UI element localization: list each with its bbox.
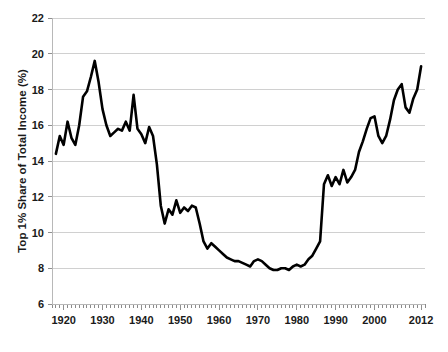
chart-container: 6810121416182022 19201930194019501960197…: [0, 0, 448, 352]
y-axis-title: Top 1% Share of Total Income (%): [16, 69, 28, 253]
y-axis-tick-label: 12: [32, 191, 44, 203]
y-axis-tick-label: 10: [32, 227, 44, 239]
y-axis-tick-label: 22: [32, 12, 44, 24]
x-axis-tick-label: 1960: [207, 314, 231, 326]
x-axis-tick-label: 1940: [129, 314, 153, 326]
line-chart: 6810121416182022 19201930194019501960197…: [0, 0, 448, 352]
x-axis-tick-label: 1980: [285, 314, 309, 326]
x-axis-tick-label: 2012: [409, 314, 433, 326]
y-axis-tick-label: 20: [32, 48, 44, 60]
y-axis-tick-label: 14: [32, 155, 45, 167]
x-axis-tick-label: 1930: [90, 314, 114, 326]
x-axis-tick-label: 1990: [323, 314, 347, 326]
y-axis-tick-label: 16: [32, 119, 44, 131]
x-axis-tick-label: 1950: [168, 314, 192, 326]
y-axis-tick-label: 8: [38, 262, 44, 274]
x-axis-tick-label: 2000: [362, 314, 386, 326]
y-axis-tick-label: 18: [32, 84, 44, 96]
chart-background: [0, 0, 448, 352]
y-axis-tick-label: 6: [38, 298, 44, 310]
x-axis-tick-label: 1970: [246, 314, 270, 326]
x-axis-tick-label: 1920: [51, 314, 75, 326]
